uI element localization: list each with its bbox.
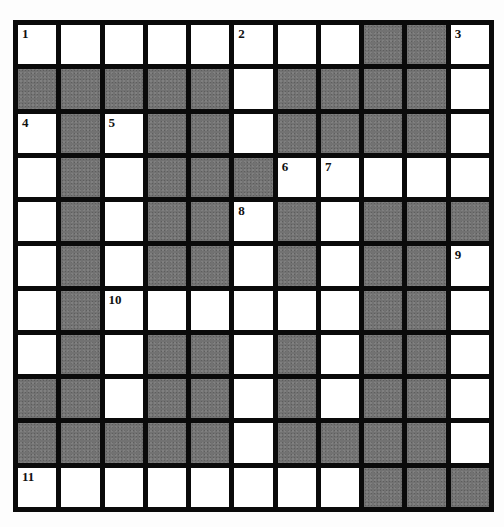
answer-cell[interactable] xyxy=(451,423,489,462)
block-cell xyxy=(278,335,316,374)
answer-cell[interactable] xyxy=(278,468,316,507)
block-cell xyxy=(61,423,99,462)
answer-cell[interactable] xyxy=(321,335,359,374)
block-cell xyxy=(191,114,229,153)
answer-cell[interactable]: 1 xyxy=(18,25,56,64)
answer-cell[interactable] xyxy=(321,25,359,64)
answer-cell[interactable] xyxy=(148,468,186,507)
answer-cell[interactable] xyxy=(18,335,56,374)
answer-cell[interactable] xyxy=(191,468,229,507)
answer-cell[interactable] xyxy=(451,69,489,108)
block-cell xyxy=(407,202,445,241)
answer-cell[interactable] xyxy=(18,246,56,285)
answer-cell[interactable] xyxy=(18,202,56,241)
answer-cell[interactable] xyxy=(61,25,99,64)
answer-cell[interactable] xyxy=(18,158,56,197)
block-cell xyxy=(61,158,99,197)
answer-cell[interactable] xyxy=(191,25,229,64)
answer-cell[interactable] xyxy=(234,423,272,462)
answer-cell[interactable]: 2 xyxy=(234,25,272,64)
block-cell xyxy=(148,246,186,285)
answer-cell[interactable] xyxy=(18,291,56,330)
answer-cell[interactable] xyxy=(105,468,143,507)
clue-number: 2 xyxy=(238,27,245,41)
block-cell xyxy=(278,69,316,108)
answer-cell[interactable] xyxy=(234,291,272,330)
block-cell xyxy=(364,468,402,507)
answer-cell[interactable] xyxy=(148,25,186,64)
block-cell xyxy=(321,114,359,153)
answer-cell[interactable] xyxy=(451,335,489,374)
answer-cell[interactable] xyxy=(105,335,143,374)
clue-number: 4 xyxy=(22,116,29,130)
block-cell xyxy=(364,246,402,285)
answer-cell[interactable] xyxy=(105,25,143,64)
answer-cell[interactable]: 8 xyxy=(234,202,272,241)
answer-cell[interactable]: 5 xyxy=(105,114,143,153)
clue-number: 3 xyxy=(455,27,462,41)
block-cell xyxy=(61,291,99,330)
clue-number: 8 xyxy=(238,204,245,218)
block-cell xyxy=(18,423,56,462)
answer-cell[interactable] xyxy=(61,468,99,507)
answer-cell[interactable] xyxy=(278,291,316,330)
block-cell xyxy=(451,468,489,507)
answer-cell[interactable] xyxy=(451,114,489,153)
answer-cell[interactable] xyxy=(321,468,359,507)
block-cell xyxy=(364,202,402,241)
answer-cell[interactable] xyxy=(234,69,272,108)
answer-cell[interactable] xyxy=(278,25,316,64)
answer-cell[interactable] xyxy=(451,379,489,418)
clue-number: 11 xyxy=(22,470,34,484)
answer-cell[interactable] xyxy=(234,246,272,285)
block-cell xyxy=(61,379,99,418)
answer-cell[interactable] xyxy=(105,246,143,285)
clue-number: 7 xyxy=(325,160,332,174)
block-cell xyxy=(148,202,186,241)
answer-cell[interactable] xyxy=(105,379,143,418)
answer-cell[interactable] xyxy=(321,202,359,241)
answer-cell[interactable] xyxy=(407,158,445,197)
block-cell xyxy=(364,25,402,64)
answer-cell[interactable] xyxy=(234,114,272,153)
block-cell xyxy=(148,158,186,197)
block-cell xyxy=(407,246,445,285)
answer-cell[interactable]: 11 xyxy=(18,468,56,507)
answer-cell[interactable] xyxy=(234,335,272,374)
block-cell xyxy=(148,114,186,153)
block-cell xyxy=(61,114,99,153)
answer-cell[interactable]: 4 xyxy=(18,114,56,153)
answer-cell[interactable]: 3 xyxy=(451,25,489,64)
answer-cell[interactable] xyxy=(321,246,359,285)
answer-cell[interactable] xyxy=(191,291,229,330)
answer-cell[interactable] xyxy=(451,158,489,197)
block-cell xyxy=(61,335,99,374)
block-cell xyxy=(407,468,445,507)
block-cell xyxy=(407,379,445,418)
answer-cell[interactable] xyxy=(234,468,272,507)
answer-cell[interactable]: 6 xyxy=(278,158,316,197)
block-cell xyxy=(234,158,272,197)
answer-cell[interactable] xyxy=(105,158,143,197)
block-cell xyxy=(364,114,402,153)
block-cell xyxy=(407,114,445,153)
block-cell xyxy=(191,423,229,462)
answer-cell[interactable]: 7 xyxy=(321,158,359,197)
answer-cell[interactable] xyxy=(148,291,186,330)
answer-cell[interactable]: 9 xyxy=(451,246,489,285)
clue-number: 6 xyxy=(282,160,289,174)
answer-cell[interactable] xyxy=(364,158,402,197)
block-cell xyxy=(364,335,402,374)
block-cell xyxy=(18,379,56,418)
answer-cell[interactable] xyxy=(234,379,272,418)
block-cell xyxy=(407,423,445,462)
block-cell xyxy=(364,423,402,462)
block-cell xyxy=(191,335,229,374)
clue-number: 9 xyxy=(455,248,462,262)
answer-cell[interactable] xyxy=(451,291,489,330)
answer-cell[interactable]: 10 xyxy=(105,291,143,330)
answer-cell[interactable] xyxy=(105,202,143,241)
block-cell xyxy=(191,246,229,285)
answer-cell[interactable] xyxy=(321,291,359,330)
answer-cell[interactable] xyxy=(321,379,359,418)
